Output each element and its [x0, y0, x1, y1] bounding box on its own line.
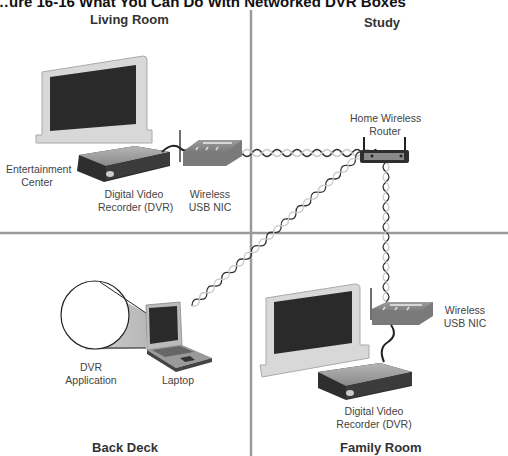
- dvr-living-room: [77, 146, 170, 182]
- family-room-tv: [260, 284, 369, 377]
- label-nic-family: Wireless USB NIC: [440, 304, 490, 330]
- label-line: USB NIC: [440, 317, 490, 330]
- label-dvr-application: DVR Application: [62, 361, 120, 387]
- label-laptop: Laptop: [155, 374, 201, 387]
- room-label-family-room: Family Room: [340, 440, 420, 455]
- wireless-usb-nic-living: [180, 130, 242, 166]
- dvr-family-room: [318, 363, 412, 400]
- label-line: USB NIC: [185, 201, 235, 214]
- label-nic-living: Wireless USB NIC: [185, 188, 235, 214]
- room-label-study: Study: [352, 15, 412, 30]
- label-line: Router: [350, 125, 420, 138]
- label-line: DVR: [62, 361, 120, 374]
- network-diagram: [0, 0, 508, 456]
- wireless-link-laptop-to-router: [190, 150, 365, 308]
- label-line: Wireless: [440, 304, 490, 317]
- label-line: Digital Video: [336, 405, 412, 418]
- label-line: Recorder (DVR): [336, 418, 412, 431]
- label-line: Application: [62, 374, 120, 387]
- room-label-living-room: Living Room: [90, 12, 160, 27]
- label-line: Digital Video: [98, 188, 170, 201]
- label-dvr-living: Digital Video Recorder (DVR): [98, 188, 170, 214]
- room-label-back-deck: Back Deck: [90, 440, 160, 455]
- entertainment-center-tv: [36, 56, 152, 143]
- label-line: Home Wireless: [350, 112, 420, 125]
- label-line: Entertainment: [6, 163, 68, 176]
- label-line: Wireless: [185, 188, 235, 201]
- wireless-link-living-to-router: [232, 150, 376, 157]
- home-wireless-router: [360, 137, 409, 163]
- label-dvr-family: Digital Video Recorder (DVR): [336, 405, 412, 431]
- label-entertainment-center: Entertainment Center: [6, 163, 68, 189]
- label-line: Center: [6, 176, 68, 189]
- label-line: Recorder (DVR): [98, 201, 170, 214]
- laptop: [146, 302, 212, 372]
- wireless-usb-nic-family: [371, 288, 433, 325]
- cable-family: [382, 325, 394, 362]
- label-router: Home Wireless Router: [350, 112, 420, 138]
- dvr-application-callout: [61, 280, 146, 350]
